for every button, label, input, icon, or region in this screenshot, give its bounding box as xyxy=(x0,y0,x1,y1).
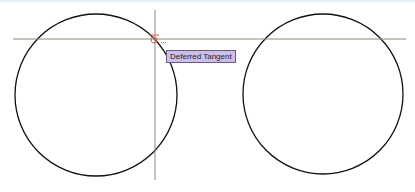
snap-tooltip: Deferred Tangent xyxy=(166,50,236,63)
left-circle[interactable] xyxy=(15,14,177,176)
right-circle[interactable] xyxy=(243,14,403,174)
snap-dots-icon xyxy=(161,42,166,43)
drawing-canvas[interactable] xyxy=(0,0,415,192)
